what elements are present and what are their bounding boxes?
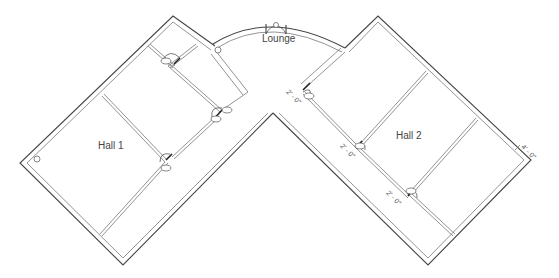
door-hall1 [160,154,172,171]
room-label-hall2: Hall 2 [396,130,422,141]
room-label-hall1: Hall 1 [98,140,124,151]
door-corridor-right [303,83,314,99]
fixture-lounge-left [215,47,221,53]
left-wing-doors [34,47,232,171]
room-label-lounge: Lounge [262,33,295,44]
door-hall2-lower [406,188,417,198]
corridor-walls [211,48,345,95]
right-wing-partitions [303,71,478,236]
left-wing-walls [20,16,273,265]
fixture-left-wall [34,156,40,162]
door-hall2-upper [355,141,365,150]
